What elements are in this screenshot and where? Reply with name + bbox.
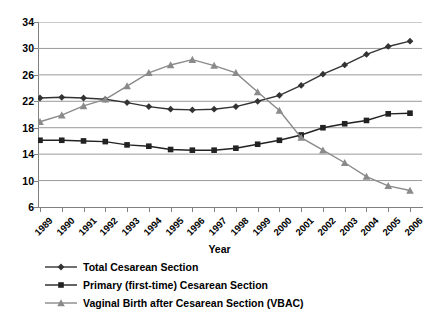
data-point-marker [232,103,239,110]
data-point-marker [407,38,414,45]
data-point-marker [81,138,87,144]
series-line [40,60,410,191]
legend-label: Total Cesarean Section [83,261,198,273]
data-point-marker [58,111,66,118]
data-point-marker [320,71,327,78]
y-axis-tick-label: 14 [6,149,34,159]
data-point-marker [58,94,65,101]
x-axis-tick-mark [279,207,280,212]
y-axis-tick-label: 18 [6,123,34,133]
x-axis-tick-mark [84,207,85,212]
series-svg [38,22,422,207]
y-axis-tick-label: 26 [6,70,34,80]
x-axis-tick-mark [301,207,302,212]
y-axis-tick-label: 34 [6,17,34,27]
x-axis-tick-mark [105,207,106,212]
series-line [40,41,410,110]
x-axis-tick-mark [62,207,63,212]
data-point-marker [189,56,197,63]
data-point-marker [58,282,64,288]
data-point-marker [124,142,130,148]
data-point-marker [167,106,174,113]
data-point-marker [189,106,196,113]
x-axis-tick-mark [149,207,150,212]
data-point-marker [320,125,326,131]
data-point-marker [211,147,217,153]
x-axis-tick-mark [366,207,367,212]
data-point-marker [124,99,131,106]
x-axis-tick-mark [388,207,389,212]
data-point-marker [80,95,87,102]
data-point-marker [146,143,152,149]
data-point-marker [384,182,392,189]
legend-item: Primary (first-time) Cesarean Section [44,276,424,294]
data-point-marker [123,82,131,89]
data-point-marker [255,141,261,147]
legend-marker-icon [44,260,78,274]
x-axis-tick-mark [214,207,215,212]
x-axis-tick-mark [258,207,259,212]
data-point-marker [190,147,196,153]
x-axis-tick-mark [410,207,411,212]
data-point-marker [407,110,413,116]
data-point-marker [363,173,371,180]
legend-marker-icon [44,296,78,310]
data-point-marker [364,118,370,124]
data-point-marker [233,145,239,151]
x-axis-title: Year [0,243,439,255]
data-point-marker [102,139,108,145]
data-point-marker [145,103,152,110]
legend-label: Primary (first-time) Cesarean Section [83,279,268,291]
x-axis-tick-mark [345,207,346,212]
data-point-marker [319,146,327,153]
y-axis-tick-label: 10 [6,176,34,186]
data-point-marker [298,82,305,89]
data-point-marker [341,159,349,166]
data-point-marker [38,137,43,143]
x-axis-tick-mark [127,207,128,212]
data-point-marker [341,62,348,69]
data-point-marker [168,147,174,153]
line-chart: 610141822263034 198919901991199219931994… [0,0,439,316]
data-point-marker [342,121,348,127]
chart-legend: Total Cesarean SectionPrimary (first-tim… [44,258,424,312]
data-point-marker [211,106,218,113]
data-point-marker [58,264,65,271]
legend-marker-icon [44,278,78,292]
x-axis-tick-mark [236,207,237,212]
legend-label: Vaginal Birth after Cesarean Section (VB… [83,297,304,309]
data-point-marker [385,111,391,117]
data-point-marker [276,92,283,99]
legend-item: Vaginal Birth after Cesarean Section (VB… [44,294,424,312]
x-axis-tick-mark [40,207,41,212]
x-axis-tick-mark [323,207,324,212]
data-point-marker [254,98,261,105]
data-point-marker [59,137,65,143]
x-axis-tick-mark [171,207,172,212]
y-axis-tick-label: 22 [6,96,34,106]
data-point-marker [277,137,283,143]
y-axis-tick-label: 30 [6,43,34,53]
data-point-marker [363,51,370,58]
y-axis: 610141822263034 [0,0,34,316]
series-line [40,113,410,150]
plot-area [38,22,422,207]
data-point-marker [38,95,43,102]
legend-item: Total Cesarean Section [44,258,424,276]
x-axis-tick-mark [192,207,193,212]
